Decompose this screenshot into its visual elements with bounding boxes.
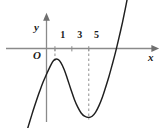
- function-curve: [27, 0, 130, 128]
- graph-canvas: [0, 0, 167, 128]
- origin-label: O: [33, 50, 41, 61]
- y-axis-label: y: [34, 22, 39, 33]
- dashed-guide-group: [55, 49, 89, 120]
- x-tick-label-3: 3: [77, 30, 82, 40]
- function-graph-figure: 1 3 5 O x y: [0, 0, 167, 128]
- x-tick-label-1: 1: [60, 30, 65, 40]
- x-axis-label: x: [148, 52, 154, 63]
- x-tick-label-5: 5: [94, 30, 99, 40]
